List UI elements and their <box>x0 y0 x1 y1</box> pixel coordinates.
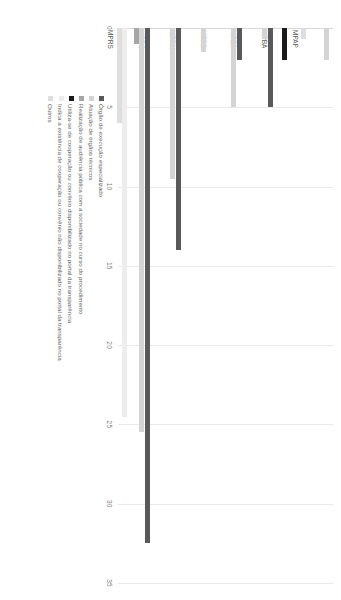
bar-group: MPAP <box>302 28 333 583</box>
legend-label: Indica a existência de cooperação ou con… <box>57 104 65 361</box>
bar <box>282 28 287 60</box>
category-label: MPRS <box>107 30 114 49</box>
legend-item[interactable]: Órgão de execução especializado <box>97 96 105 576</box>
legend-swatch-icon <box>48 96 53 101</box>
x-tick-label: 25 <box>106 421 113 429</box>
bar-group: MPES <box>241 28 272 583</box>
bar <box>122 28 127 417</box>
bar <box>117 28 122 123</box>
bar <box>324 28 329 60</box>
legend-swatch-icon <box>79 96 84 101</box>
gridline <box>118 583 333 584</box>
x-tick-label: 5 <box>106 105 113 109</box>
bar <box>139 28 144 432</box>
x-tick-label: 10 <box>106 183 113 191</box>
legend-label: Outros <box>46 104 54 123</box>
legend-item[interactable]: Realização de audiência pública com a so… <box>77 96 85 576</box>
legend-label: Realização de audiência pública com a so… <box>77 104 85 315</box>
legend-swatch-icon <box>59 96 64 101</box>
legend-label: Órgão de execução especializado <box>97 104 105 197</box>
bar <box>170 28 175 179</box>
legend-swatch-icon <box>89 96 94 101</box>
x-tick-label: 35 <box>106 579 113 587</box>
bar-group: MPBA <box>272 28 303 583</box>
bar <box>231 28 236 107</box>
x-tick-label: 30 <box>106 500 113 508</box>
legend-label: Atuação de órgãos técnicos <box>87 104 95 180</box>
bar-group: MPRS <box>118 28 149 583</box>
chart-legend: Órgão de execução especializadoAtuação d… <box>44 96 105 576</box>
x-tick-label: 20 <box>106 341 113 349</box>
bar <box>268 28 273 107</box>
legend-swatch-icon <box>69 96 74 101</box>
bar <box>237 28 242 60</box>
x-tick-label: 0 <box>106 26 113 30</box>
legend-item[interactable]: Indica a existência de cooperação ou con… <box>57 96 65 576</box>
chart-canvas: MPAPMPBAMPESMPPBMPRNMPROMPRS 05101520253… <box>0 0 341 600</box>
bar <box>134 28 139 44</box>
legend-item[interactable]: Outros <box>46 96 54 576</box>
bar-group: MPPB <box>210 28 241 583</box>
bar <box>145 28 150 543</box>
bar-group: MPRN <box>179 28 210 583</box>
rotated-chart-figure: MPAPMPBAMPESMPPBMPRNMPROMPRS 05101520253… <box>0 0 341 600</box>
legend-item[interactable]: Utiliza-se de cooperação ou convênio dis… <box>67 96 75 576</box>
bar-group: MPRO <box>149 28 180 583</box>
legend-label: Utiliza-se de cooperação ou convênio dis… <box>67 104 75 323</box>
plot-area: MPAPMPBAMPESMPPBMPRNMPROMPRS <box>118 28 333 583</box>
legend-swatch-icon <box>99 96 104 101</box>
bar <box>201 28 206 52</box>
x-tick-label: 15 <box>106 262 113 270</box>
bar <box>176 28 181 250</box>
bar <box>262 28 267 39</box>
legend-item[interactable]: Atuação de órgãos técnicos <box>87 96 95 576</box>
